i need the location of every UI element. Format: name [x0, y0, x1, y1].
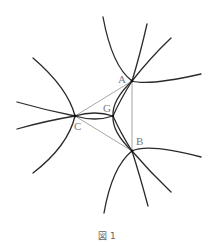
point-g-dot: [112, 115, 114, 117]
triangle-abc: [75, 81, 132, 151]
curves-at-c: [17, 58, 113, 173]
curves-at-a: [103, 17, 201, 116]
figure-caption: 図 1: [0, 229, 214, 242]
figure-diagram: [0, 0, 214, 249]
label-c: C: [74, 121, 81, 132]
curves-at-b: [104, 116, 201, 213]
point-c-dot: [74, 115, 77, 118]
point-a-dot: [131, 80, 134, 83]
label-a: A: [118, 74, 126, 85]
point-b-dot: [131, 150, 134, 153]
label-g: G: [103, 103, 111, 114]
label-b: B: [136, 136, 143, 147]
